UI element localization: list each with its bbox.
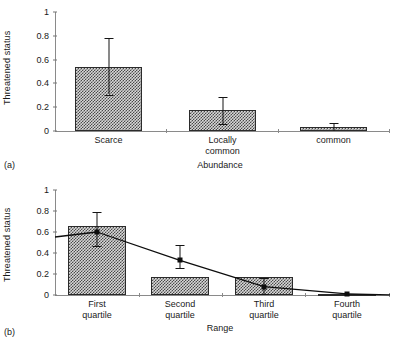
panel-b-marker-second-quartile [178,258,183,263]
panel-b-x-axis-title: Range [120,323,320,333]
xcat-line: quartile [82,310,112,321]
panel-a-ytick-mark [53,107,57,108]
panel-b-ytick-label: 0.8 [23,206,49,216]
panel-a-ytick-mark [53,59,57,60]
panel-a-errorcap-top [104,38,113,39]
panel-a-ytick-label: 0.2 [23,102,49,112]
panel-b-ytick-label: 1 [23,185,49,195]
panel-a-ytick-mark [53,131,57,132]
panel-b-errorcap-top [260,278,269,279]
xcat-line: First [82,299,112,310]
panel-a-y-axis-line [55,12,56,131]
panel-a-errorbar-common [333,123,334,131]
panel-b-xtick-label-third-quartile: Third quartile [249,299,279,320]
panel-a-ytick-mark [53,35,57,36]
panel-a-x-axis-title: Abundance [120,160,320,170]
panel-b-errorbar-second-quartile [180,245,181,268]
xcat-line: Fourth [332,299,362,310]
panel-a-errorcap-bottom [218,124,227,125]
panel-a-ytick-label: 0 [23,126,49,136]
panel-a-xtick-label-scarce: Scarce [94,135,122,146]
panel-b-xtick-label-first-quartile: First quartile [82,299,112,320]
panel-b-plot-area: 1 0.8 0.6 0.4 0.2 0 [55,189,390,299]
figure-panel-set: Threatened status 1 0.8 0.6 0.4 0.2 0 [0,0,402,349]
panel-b-ytick-label: 0.6 [23,227,49,237]
panel-b-ytick-label: 0.2 [23,269,49,279]
xcat-line: Locally [205,135,240,146]
panel-b-marker-first-quartile [95,230,100,235]
panel-b-marker-fourth-quartile [345,291,350,296]
panel-b-y-axis-title: Threatened status [2,195,12,295]
panel-a-ytick-label: 1 [23,7,49,17]
panel-a-errorbar-locally-common [222,97,223,124]
panel-b-label: (b) [4,327,15,337]
panel-b-ytick-label: 0 [23,290,49,300]
panel-a-x-axis-line [55,131,390,132]
panel-b-ytick-label: 0.4 [23,248,49,258]
panel-a-ytick-mark [53,83,57,84]
panel-a-ytick-label: 0.6 [23,55,49,65]
panel-a-plot-area: 1 0.8 0.6 0.4 0.2 0 Sca [55,10,390,133]
panel-b-errorcap-bottom [260,294,269,295]
panel-b-errorcap-bottom [93,246,102,247]
panel-a-xtick-mark [166,129,167,133]
panel-a-ytick-label: 0.8 [23,31,49,41]
panel-a-xtick-label-locally-common: Locally common [205,135,240,156]
xcat-line: common [205,146,240,157]
panel-a-errorcap-top [218,97,227,98]
panel-a-y-axis-title: Threatened status [2,12,12,124]
xcat-line: common [316,135,351,146]
xcat-line: quartile [165,310,196,321]
panel-a-ytick-mark [53,12,57,13]
panel-a-errorcap-top [329,123,338,124]
panel-b-trend-line [55,189,390,299]
panel-a: Threatened status 1 0.8 0.6 0.4 0.2 0 [0,0,402,175]
panel-a-label: (a) [4,160,15,170]
xcat-line: Third [249,299,279,310]
xcat-line: Scarce [94,135,122,146]
panel-b-errorcap-top [93,212,102,213]
panel-b-xtick-label-fourth-quartile: Fourth quartile [332,299,362,320]
panel-b-errorcap-bottom [176,268,185,269]
xcat-line: Second [165,299,196,310]
panel-a-ytick-label: 0.4 [23,78,49,88]
panel-b: Threatened status 1 0.8 0.6 0.4 0.2 0 [0,175,402,349]
panel-b-errorcap-top [176,245,185,246]
panel-a-errorbar-scarce [108,38,109,94]
panel-a-xtick-label-common: common [316,135,351,146]
panel-a-xtick-mark [278,129,279,133]
panel-a-errorcap-bottom [104,95,113,96]
xcat-line: quartile [249,310,279,321]
xcat-line: quartile [332,310,362,321]
panel-b-marker-third-quartile [262,284,267,289]
panel-a-xtick-mark [389,129,390,133]
panel-b-xtick-label-second-quartile: Second quartile [165,299,196,320]
